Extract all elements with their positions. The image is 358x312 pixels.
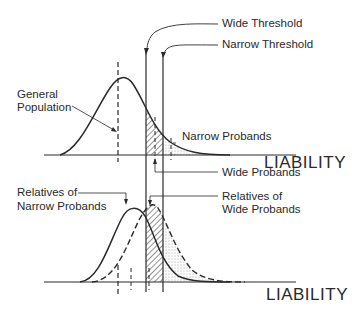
narrow-probands-label: Narrow Probands — [182, 130, 271, 143]
relatives-wide-label-line1: Relatives of — [222, 190, 282, 203]
arrowhead-icon — [153, 158, 157, 164]
arrowhead-icon — [111, 127, 117, 132]
general-population-label-line1: General — [17, 88, 58, 101]
bottom-axis-label: LIABILITY — [266, 285, 348, 305]
wide-threshold-label: Wide Threshold — [222, 17, 302, 30]
narrow-threshold-pointer — [164, 45, 218, 55]
top-dotted-region — [163, 100, 233, 156]
wide-threshold-pointer — [147, 24, 218, 50]
relatives-wide-label-line2: Wide Probands — [222, 203, 301, 216]
relatives-narrow-label-line2: Narrow Probands — [17, 200, 106, 213]
general-population-pointer — [72, 106, 114, 130]
narrow-threshold-label: Narrow Threshold — [222, 38, 313, 51]
general-population-label-line2: Population — [17, 101, 71, 114]
general-population-curve — [60, 78, 230, 155]
arrowhead-icon — [124, 199, 128, 205]
top-panel — [44, 62, 296, 162]
relatives-wide-pointer — [150, 196, 218, 202]
relatives-narrow-label-line1: Relatives of — [17, 186, 77, 199]
wide-probands-pointer — [155, 162, 218, 172]
wide-probands-label: Wide Probands — [222, 166, 301, 179]
